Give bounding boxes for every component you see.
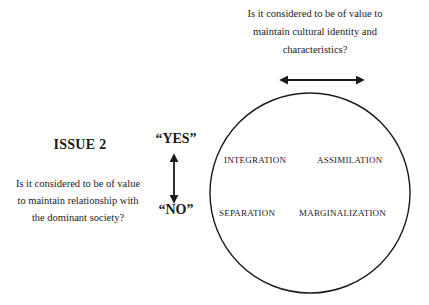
quadrant-marginalization: MARGINALIZATION (299, 208, 386, 218)
cultural-identity-question: Is it considered to be of value to maint… (240, 5, 390, 59)
relationship-question: Is it considered to be of value to maint… (13, 175, 143, 226)
yes-label: “YES” (150, 131, 202, 147)
issue-title: ISSUE 2 (30, 137, 130, 153)
acculturation-circle (210, 93, 410, 293)
quadrant-integration: INTEGRATION (224, 155, 286, 165)
no-label: “NO” (150, 202, 202, 218)
quadrant-assimilation: ASSIMILATION (317, 155, 382, 165)
quadrant-separation: SEPARATION (219, 208, 275, 218)
